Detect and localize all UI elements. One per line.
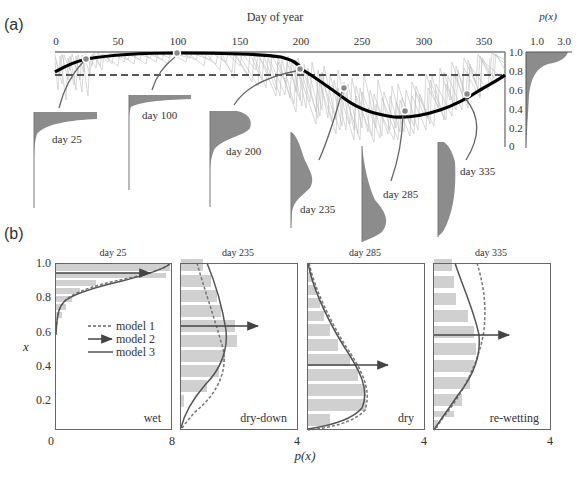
side-tick: 1.0 [530, 35, 544, 47]
legend-model-1-label: model 1 [116, 319, 155, 333]
x-max-label: 4 [294, 434, 300, 448]
snapshot-label: day 285 [383, 188, 419, 200]
subplot-day-235: day 235 dry-down [181, 247, 298, 430]
b-x-axis-title: p(x) [294, 448, 316, 463]
y-tick: 0.2 [36, 393, 51, 407]
x-axis-title: Day of year [247, 10, 304, 24]
marker-day-285 [402, 108, 409, 115]
snapshot-label: day 335 [460, 165, 496, 177]
snapshot-label: day 100 [142, 109, 178, 121]
x-tick: 0 [53, 35, 59, 47]
snapshot-day-285: day 285 [362, 146, 419, 242]
y-tick: 1.0 [509, 46, 523, 58]
subplot-title: day 285 [349, 247, 381, 258]
snapshot-day-100: day 100 [129, 95, 191, 190]
y-tick: 0.4 [509, 103, 523, 115]
subplot-title: day 335 [475, 247, 507, 258]
subplot-day-285: day 285 dry [308, 247, 425, 430]
subplot-day-25: day 25 wet model 1 model 2 [56, 247, 172, 430]
snapshot-label: day 200 [226, 145, 262, 157]
subplot-title: day 235 [222, 247, 254, 258]
marker-day-100 [174, 50, 181, 57]
snapshot-day-200: day 200 [210, 111, 262, 207]
panel-a: (a) Day of year 0 50 100 150 200 250 300… [4, 10, 572, 242]
panel-b: (b) 1.0 0.8 0.6 0.4 0.2 x 0 8 4 4 4 p(x)… [4, 225, 553, 463]
x-tick-labels: 0 50 100 150 200 250 300 350 [53, 35, 493, 47]
stochastic-traces [55, 53, 505, 142]
legend: model 1 model 2 model 3 [88, 319, 155, 359]
snapshot-label: day 235 [300, 203, 336, 215]
y-tick: 1.0 [36, 256, 51, 270]
x-tick: 300 [416, 35, 433, 47]
y-tick-labels: 1.0 0.8 0.6 0.4 0.2 0 [509, 46, 523, 152]
snapshot-day-25: day 25 [34, 112, 97, 208]
y-tick: 0 [509, 140, 515, 152]
side-px-area [526, 52, 568, 147]
histogram-bars [308, 272, 366, 426]
x-zero-label: 0 [48, 434, 54, 448]
snapshot-day-235: day 235 [291, 132, 336, 228]
side-px-title: p(x) [538, 10, 557, 23]
side-px-plot: p(x) 1.0 3.0 [526, 10, 572, 148]
legend-model-3-label: model 3 [116, 345, 155, 359]
subplot-title: day 25 [100, 247, 127, 258]
panel-b-label: (b) [4, 225, 24, 242]
x-tick: 250 [354, 35, 371, 47]
marker-day-200 [297, 66, 304, 73]
x-tick: 150 [232, 35, 249, 47]
histogram-bars [181, 259, 237, 407]
x-max-label: 4 [547, 434, 553, 448]
snapshot-day-335: day 335 [438, 142, 496, 237]
y-tick: 0.8 [36, 290, 51, 304]
x-tick: 50 [113, 35, 125, 47]
y-tick: 0.6 [36, 325, 51, 339]
marker-day-335 [464, 91, 471, 98]
panel-a-label: (a) [4, 16, 24, 33]
regime-label: dry-down [240, 411, 287, 425]
snapshot-label: day 25 [52, 133, 82, 145]
x-max-label: 4 [421, 434, 427, 448]
x-max-label: 8 [169, 434, 175, 448]
subplot-day-335: day 335 re-wetting [434, 247, 551, 430]
b-y-tick-labels: 1.0 0.8 0.6 0.4 0.2 [36, 256, 51, 407]
y-tick: 0.6 [509, 84, 523, 96]
legend-model-2-label: model 2 [116, 332, 155, 346]
x-tick: 100 [170, 35, 187, 47]
figure: (a) Day of year 0 50 100 150 200 250 300… [0, 0, 588, 479]
marker-day-25 [83, 56, 90, 63]
side-tick: 3.0 [557, 35, 571, 47]
seasonal-mean-curve [55, 53, 505, 117]
marker-day-235 [341, 85, 348, 92]
y-tick: 0.8 [509, 65, 523, 77]
y-tick: 0.4 [36, 359, 51, 373]
b-y-axis-title: x [22, 339, 29, 354]
regime-label: dry [398, 411, 414, 425]
x-tick: 350 [476, 35, 493, 47]
x-tick: 200 [293, 35, 310, 47]
regime-label: wet [144, 411, 162, 425]
regime-label: re-wetting [490, 411, 539, 425]
y-tick: 0.2 [509, 122, 523, 134]
